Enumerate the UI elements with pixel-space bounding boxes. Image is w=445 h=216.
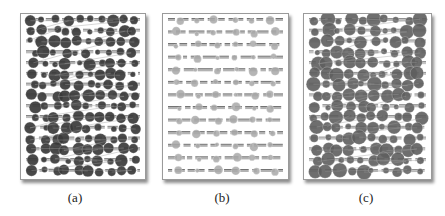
- caption-b: (b): [202, 190, 242, 206]
- fixation-overlay: [163, 14, 288, 179]
- figure-eye-tracking-heatmaps: (a) (b) (c): [0, 0, 445, 216]
- fixation-overlay: [21, 14, 145, 179]
- caption-a: (a): [55, 190, 95, 206]
- page-image-b: [162, 13, 289, 180]
- page-image-a: [20, 13, 146, 180]
- fixation-overlay: [304, 14, 431, 179]
- page-image-c: [303, 13, 432, 180]
- caption-c: (c): [346, 190, 386, 206]
